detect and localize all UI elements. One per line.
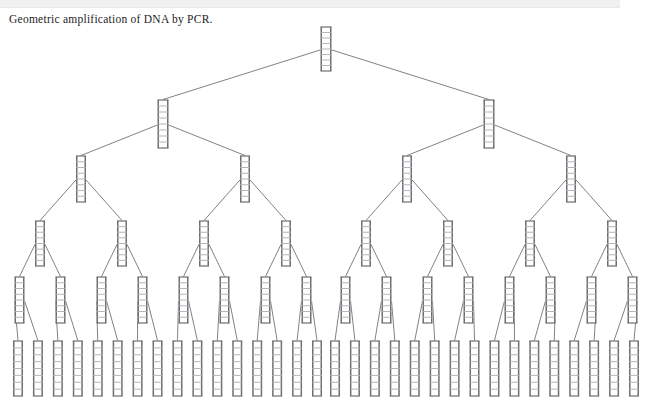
tree-edge — [271, 301, 278, 341]
dna-ladder-icon — [158, 100, 169, 148]
dna-ladder-icon — [272, 341, 282, 396]
dna-ladder-icon — [370, 341, 380, 396]
pcr-amplification-tree — [0, 0, 652, 404]
tree-edge — [617, 244, 633, 276]
tree-edge — [312, 301, 318, 341]
tree-edge — [107, 301, 118, 341]
tree-edge — [86, 180, 122, 221]
tree-edge — [366, 180, 402, 221]
tree-edge — [392, 301, 395, 341]
tree-nodes-layer — [13, 27, 639, 396]
tree-edge — [148, 301, 158, 341]
tree-edge — [291, 244, 307, 276]
dna-ladder-icon — [587, 277, 597, 323]
tree-edge — [433, 301, 435, 341]
dna-ladder-icon — [97, 277, 107, 323]
tree-edge — [266, 244, 282, 276]
dna-ladder-icon — [569, 341, 579, 396]
dna-ladder-icon — [199, 221, 209, 266]
dna-ladder-icon — [281, 221, 291, 266]
dna-ladder-icon — [410, 341, 420, 396]
tree-edge — [534, 301, 545, 341]
tree-edge — [453, 244, 469, 276]
dna-ladder-icon — [252, 341, 262, 396]
dna-ladder-icon — [450, 341, 460, 396]
tree-edge — [127, 244, 143, 276]
tree-edge — [257, 301, 260, 341]
dna-ladder-icon — [56, 277, 66, 323]
dna-ladder-icon — [232, 341, 242, 396]
dna-ladder-icon — [117, 221, 127, 266]
dna-ladder-icon — [629, 341, 639, 396]
dna-ladder-icon — [53, 341, 63, 396]
dna-ladder-icon — [484, 100, 495, 148]
tree-edge — [163, 50, 321, 100]
dna-ladder-icon — [312, 341, 322, 396]
tree-edge — [66, 301, 78, 341]
dna-ladder-icon — [73, 341, 83, 396]
figure-canvas: Geometric amplification of DNA by PCR. — [0, 0, 652, 404]
dna-ladder-icon — [321, 27, 332, 71]
dna-ladder-icon — [240, 156, 250, 202]
tree-edge — [412, 180, 448, 221]
tree-edge — [455, 301, 464, 341]
tree-edge — [346, 244, 362, 276]
tree-edge — [495, 125, 572, 156]
dna-ladder-icon — [529, 341, 539, 396]
dna-ladder-icon — [546, 277, 556, 323]
dna-ladder-icon — [35, 221, 45, 266]
tree-edges-layer — [15, 50, 638, 341]
dna-ladder-icon — [489, 341, 499, 396]
tree-edge — [209, 244, 225, 276]
dna-ladder-icon — [113, 341, 123, 396]
tree-edge — [81, 125, 158, 156]
dna-ladder-icon — [607, 221, 617, 266]
tree-edge — [217, 301, 219, 341]
tree-edge — [297, 301, 301, 341]
dna-ladder-icon — [423, 277, 433, 323]
tree-edge — [592, 244, 608, 276]
dna-ladder-icon — [549, 341, 559, 396]
tree-edge — [351, 301, 355, 341]
dna-ladder-icon — [390, 341, 400, 396]
dna-ladder-icon — [292, 341, 302, 396]
tree-edge — [415, 301, 423, 341]
tree-edge — [535, 244, 551, 276]
dna-ladder-icon — [93, 341, 103, 396]
dna-ladder-icon — [172, 341, 182, 396]
tree-edge — [40, 180, 76, 221]
dna-ladder-icon — [33, 341, 43, 396]
dna-ladder-icon — [609, 341, 619, 396]
dna-ladder-icon — [220, 277, 230, 323]
dna-ladder-icon — [443, 221, 453, 266]
tree-edge — [184, 244, 200, 276]
dna-ladder-icon — [330, 341, 340, 396]
dna-ladder-icon — [133, 341, 143, 396]
tree-edge — [102, 244, 118, 276]
tree-edge — [530, 180, 566, 221]
tree-edge — [371, 244, 387, 276]
dna-ladder-icon — [179, 277, 189, 323]
dna-ladder-icon — [505, 277, 515, 323]
dna-ladder-icon — [341, 277, 351, 323]
dna-ladder-icon — [76, 156, 86, 202]
dna-ladder-icon — [430, 341, 440, 396]
tree-edge — [230, 301, 238, 341]
tree-edge — [189, 301, 198, 341]
tree-edge — [375, 301, 382, 341]
tree-edge — [25, 301, 38, 341]
dna-ladder-icon — [138, 277, 148, 323]
dna-ladder-icon — [628, 277, 638, 323]
dna-ladder-icon — [402, 156, 412, 202]
dna-ladder-icon — [350, 341, 360, 396]
tree-edge — [169, 125, 246, 156]
dna-ladder-icon — [15, 277, 25, 323]
dna-ladder-icon — [361, 221, 371, 266]
dna-ladder-icon — [589, 341, 599, 396]
tree-edge — [407, 125, 484, 156]
tree-edge — [177, 301, 178, 341]
dna-ladder-icon — [470, 341, 480, 396]
tree-edge — [510, 244, 526, 276]
tree-edge — [474, 301, 475, 341]
tree-edge — [614, 301, 627, 341]
